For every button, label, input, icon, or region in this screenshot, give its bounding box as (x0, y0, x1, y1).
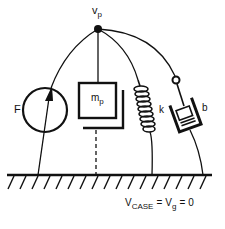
spring-label: k (159, 104, 165, 115)
damper-knob-icon (173, 77, 180, 84)
wire-to-spring (98, 29, 138, 80)
wire-to-force (51, 29, 98, 88)
damper-piston (176, 106, 193, 120)
diagram-canvas: vp F mp (0, 0, 225, 229)
damper-cylinder (170, 98, 201, 132)
mass-element: mp (79, 83, 123, 175)
connecting-wires (51, 29, 175, 88)
ground-equation: VCASE=Vg=0 (125, 197, 194, 211)
node-label: vp (92, 4, 103, 19)
spring-element (134, 80, 155, 175)
force-source: F (14, 86, 67, 175)
mass-label: mp (91, 92, 104, 106)
force-label: F (14, 103, 21, 115)
damper-element: b (170, 77, 208, 176)
damper-label: b (202, 102, 208, 113)
ground (7, 175, 212, 189)
ground-hatch (8, 176, 206, 189)
